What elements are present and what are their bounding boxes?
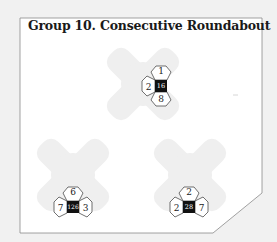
center-cell-value: 126 [67, 203, 79, 210]
cell-right-value: 3 [83, 203, 89, 213]
diagram-title: Group 10. Consecutive Roundabout [28, 18, 270, 33]
diagram-canvas: 1281667312622728 Group 10. Consecutive R… [0, 0, 277, 242]
cell-left-value: 7 [58, 203, 64, 213]
cell-left-value: 2 [146, 82, 152, 92]
cell-right-value: 7 [199, 203, 205, 213]
cell-top-value: 1 [158, 66, 164, 76]
roundabout-diagram: 1281667312622728 [0, 0, 277, 242]
cell-bottom-value: 8 [158, 94, 164, 104]
cell-top-value: 6 [70, 187, 76, 197]
center-cell-value: 16 [157, 82, 165, 90]
cell-left-value: 2 [174, 203, 180, 213]
center-cell-value: 28 [185, 203, 193, 211]
cell-top-value: 2 [186, 187, 192, 197]
